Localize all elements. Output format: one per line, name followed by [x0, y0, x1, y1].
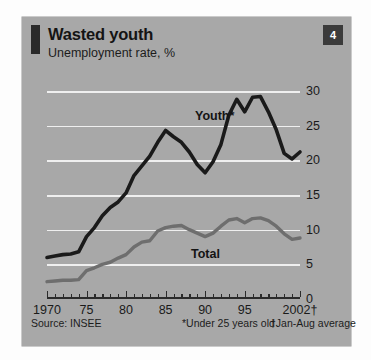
- plot-inner: Youth* Total: [47, 91, 300, 299]
- series-label-youth: Youth*: [195, 109, 234, 123]
- x-axis-tick-label: 90: [198, 303, 212, 317]
- series-lines: [47, 91, 300, 299]
- footnote-youth: *Under 25 years old: [182, 317, 275, 329]
- chart-figure: 4 Wasted youth Unemployment rate, % Yout…: [0, 0, 371, 360]
- series-line-youth: [47, 97, 300, 258]
- x-axis-major-tick: [300, 291, 301, 297]
- chart-panel: 4 Wasted youth Unemployment rate, % Yout…: [22, 17, 351, 346]
- y-axis-tick-label: 10: [306, 223, 320, 237]
- source-note: Source: INSEE: [31, 317, 102, 329]
- chart-footer: Source: INSEE *Under 25 years old †Jan-A…: [31, 317, 342, 337]
- chart-subtitle: Unemployment rate, %: [48, 46, 175, 60]
- x-axis-tick-label: 80: [119, 303, 133, 317]
- x-axis-tick-label: 2002†: [283, 303, 318, 317]
- series-line-total: [47, 218, 300, 282]
- page-title: Wasted youth: [48, 25, 153, 44]
- accent-bar: [31, 25, 40, 54]
- series-label-total: Total: [191, 247, 220, 261]
- y-axis-tick-label: 15: [306, 188, 320, 202]
- y-axis-tick-label: 5: [306, 257, 313, 271]
- y-axis-tick-label: 20: [306, 153, 320, 167]
- x-axis-tick-label: 95: [238, 303, 252, 317]
- x-axis-tick-label: 1970: [33, 303, 61, 317]
- plot-area: Youth* Total 051015202530 19707580859095…: [47, 91, 325, 299]
- chart-number-badge: 4: [323, 25, 343, 45]
- y-axis-tick-label: 30: [306, 84, 320, 98]
- x-axis-tick-label: 85: [159, 303, 173, 317]
- x-axis-tick-label: 75: [80, 303, 94, 317]
- footnote-year: †Jan-Aug average: [270, 317, 356, 329]
- y-axis-tick-label: 25: [306, 119, 320, 133]
